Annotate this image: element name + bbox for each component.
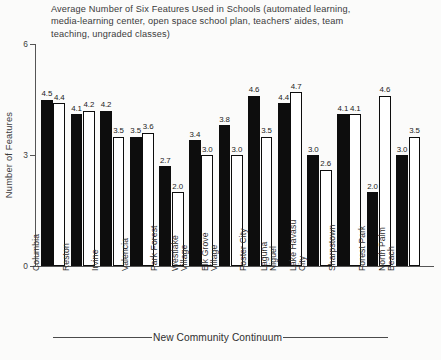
bar-value-label: 3.8: [219, 115, 230, 124]
bar-value-label: 3.0: [202, 145, 213, 154]
y-tick-label: 3: [23, 150, 28, 160]
x-category-label: Irvine: [92, 249, 102, 271]
x-category-label: Foster City: [240, 228, 250, 271]
chart-title: Average Number of Six Features Used in S…: [51, 3, 433, 40]
bar: [219, 125, 231, 266]
bar: [83, 111, 95, 266]
bar-value-label: 4.2: [84, 100, 95, 109]
bar-value-label: 3.6: [143, 122, 154, 131]
y-tick-label: 6: [23, 39, 28, 49]
x-category-label: Valencia: [121, 238, 131, 271]
bar: [248, 96, 260, 266]
x-axis-caption: New Community Continuum: [0, 332, 441, 343]
x-category-label: Park Forest: [151, 225, 161, 271]
bar: [337, 114, 349, 266]
x-axis-caption-text: New Community Continuum: [152, 332, 283, 343]
bar-value-label: 2.6: [320, 159, 331, 168]
y-axis-label: Number of Features: [4, 112, 14, 198]
bar: [130, 137, 142, 267]
x-category-label: North Palm Beach: [378, 227, 397, 271]
bar: [409, 137, 421, 267]
caption-rule-left: [53, 337, 152, 338]
bar-value-label: 4.1: [71, 104, 82, 113]
x-category-label: Sharpstown: [328, 225, 338, 271]
caption-rule-right: [283, 337, 388, 338]
bar: [396, 155, 408, 266]
bar: [307, 155, 319, 266]
bar: [53, 103, 65, 266]
bar-value-label: 4.4: [54, 93, 65, 102]
bar-value-label: 4.2: [101, 100, 112, 109]
bar: [71, 114, 83, 266]
bar: [41, 100, 53, 267]
x-category-label: Westlake Village: [171, 235, 190, 271]
bar-value-label: 3.5: [409, 126, 420, 135]
bar-value-label: 2.0: [367, 182, 378, 191]
bar-group: 4.63.5: [248, 44, 272, 266]
bar-value-label: 3.0: [308, 145, 319, 154]
bar-value-label: 4.6: [380, 85, 391, 94]
bar-series-container: 4.54.44.14.24.23.53.53.62.72.03.43.03.83…: [35, 44, 433, 266]
bar-group: 4.23.5: [100, 44, 124, 266]
bar-value-label: 3.5: [130, 126, 141, 135]
bar-value-label: 3.5: [113, 126, 124, 135]
chart-figure: Average Number of Six Features Used in S…: [0, 0, 441, 360]
x-category-label: Lake Havasu City: [289, 220, 308, 271]
bar-value-label: 4.1: [350, 104, 361, 113]
bar-value-label: 3.0: [397, 145, 408, 154]
x-category-label: Laguna Niguel: [260, 242, 279, 271]
x-category-label: Forest Park: [358, 225, 368, 271]
bar-value-label: 4.4: [278, 93, 289, 102]
bar-value-label: 3.0: [232, 145, 243, 154]
bar-group: 2.72.0: [159, 44, 183, 266]
y-tick-label: 0: [23, 261, 28, 271]
bar: [100, 111, 112, 266]
x-category-label: Columbia: [32, 234, 42, 271]
bar-group: 4.14.2: [71, 44, 95, 266]
bar-value-label: 4.1: [338, 104, 349, 113]
bar-value-label: 4.7: [291, 82, 302, 91]
bar-group: 3.03.5: [396, 44, 420, 266]
bar-value-label: 2.7: [160, 156, 171, 165]
bar-value-label: 4.5: [42, 89, 53, 98]
bar-value-label: 3.4: [190, 130, 201, 139]
plot-area: Number of Features 036 4.54.44.14.24.23.…: [35, 44, 433, 266]
bar-value-label: 4.6: [249, 85, 260, 94]
bar-value-label: 3.5: [261, 126, 272, 135]
bar-value-label: 2.0: [172, 182, 183, 191]
bar-group: 4.54.4: [41, 44, 65, 266]
x-category-label: Elk Grove Village: [200, 232, 219, 271]
x-category-label: Reston: [62, 243, 72, 271]
